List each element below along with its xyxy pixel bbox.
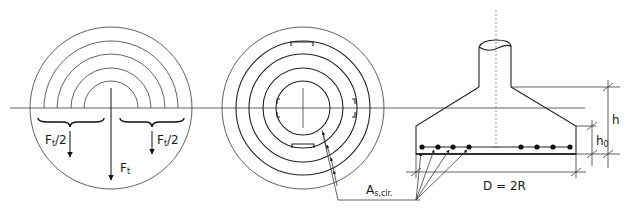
middle-plan-view: As,cir.: [222, 27, 420, 200]
rebar-dot: [550, 144, 555, 149]
rebar-dot: [567, 144, 572, 149]
brace-right: [120, 118, 184, 127]
foundation-diagram: Ft/2 Ft/2 Ft As,cir.: [0, 0, 632, 211]
column-outline: [479, 46, 511, 87]
splice-top: [291, 42, 313, 46]
leader-rebar-4: [416, 150, 467, 200]
label-ft-total: Ft: [120, 161, 130, 176]
label-diameter: D = 2R: [483, 179, 526, 193]
rebar-dot: [534, 144, 539, 149]
rebar-dot: [435, 144, 440, 149]
rebar-dot: [450, 144, 455, 149]
label-ft-half-right: Ft/2: [157, 133, 179, 148]
reinforcement-leader: [322, 130, 338, 200]
label-ft-half-left: Ft/2: [45, 133, 67, 148]
brace-left: [38, 118, 104, 127]
label-h0: h0: [596, 134, 609, 149]
footing-section-view: D = 2R h0 h: [406, 10, 620, 200]
leader-arrow-ring-2: [327, 145, 331, 160]
label-h: h: [612, 113, 620, 127]
rebar-dot: [466, 144, 471, 149]
rebar-dot: [419, 144, 424, 149]
label-as-cir: As,cir.: [366, 183, 393, 198]
rebar-dot: [518, 144, 523, 149]
column-cut-top: [479, 40, 511, 50]
leader-rebar-3: [416, 150, 449, 200]
